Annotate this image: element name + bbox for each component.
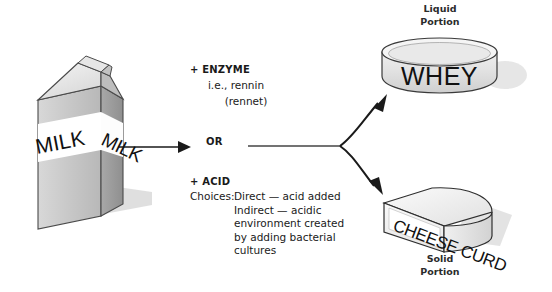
or-connector-label: OR [206,136,223,147]
acid-row-label [190,244,234,258]
enzyme-line-2: i.e., rennin [186,79,286,91]
diagram-canvas: CHEESE CURD MILK MILK WHEY + ENZYME i.e.… [0,0,552,292]
acid-choices-list: Choices: Direct — acid added Indirect — … [190,190,350,258]
arrow-head [178,141,191,153]
acid-row-label [190,204,234,218]
arrow-branch-to-curd [340,146,383,195]
solid-caption-line-1: Solid [400,253,480,266]
acid-choice-row: Choices: Direct — acid added [190,190,350,204]
liquid-portion-caption: Liquid Portion [400,3,480,28]
solid-caption-line-2: Portion [400,266,480,279]
acid-choice-row: cultures [190,244,350,258]
arrow-down-shaft [340,146,374,186]
acid-row-text: Indirect — acidic [234,204,350,218]
arrow-up-shaft [340,103,378,146]
arrow-branch-to-whey [340,94,387,146]
acid-row-label [190,231,234,245]
whey-label: WHEY [401,62,478,90]
enzyme-line-3: (rennet) [196,95,296,107]
acid-row-label [190,217,234,231]
arrow-down-head [369,177,383,195]
acid-heading: + ACID [190,176,230,187]
acid-choice-row: Indirect — acidic [190,204,350,218]
acid-row-text: Direct — acid added [234,190,350,204]
arrow-up-head [374,94,387,112]
acid-row-text: cultures [234,244,350,258]
acid-choice-row: by adding bacterial [190,231,350,245]
acid-row-text: environment created [234,217,350,231]
solid-portion-caption: Solid Portion [400,253,480,278]
liquid-caption-line-2: Portion [400,16,480,29]
acid-row-text: by adding bacterial [234,231,350,245]
enzyme-heading: + ENZYME [190,64,250,75]
acid-choice-row: environment created [190,217,350,231]
acid-row-label: Choices: [190,190,234,204]
liquid-caption-line-1: Liquid [400,3,480,16]
